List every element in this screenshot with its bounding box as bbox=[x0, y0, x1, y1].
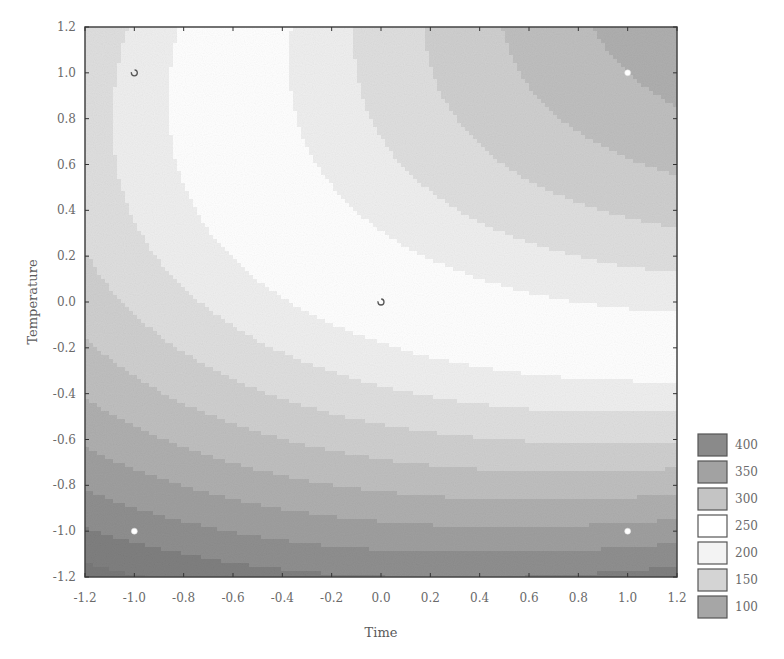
legend-swatch bbox=[698, 569, 727, 591]
x-tick-label: -1.2 bbox=[73, 591, 96, 605]
y-tick-label: -0.4 bbox=[53, 387, 77, 401]
x-tick-label: 0.0 bbox=[371, 591, 390, 605]
legend-swatch bbox=[698, 542, 727, 564]
legend-swatch bbox=[698, 596, 727, 618]
y-tick-label: 1.2 bbox=[57, 20, 76, 34]
legend-swatch bbox=[698, 461, 727, 483]
legend-label: 300 bbox=[735, 492, 758, 506]
x-tick-label: 1.0 bbox=[618, 591, 637, 605]
y-tick-label: -0.6 bbox=[53, 433, 76, 447]
contour-chart: -1.2-1.0-0.8-0.6-0.4-0.20.00.20.40.60.81… bbox=[0, 0, 784, 659]
x-tick-label: -0.8 bbox=[172, 591, 195, 605]
legend-label: 200 bbox=[735, 546, 758, 560]
x-tick-label: 0.4 bbox=[470, 591, 489, 605]
x-tick-label: -0.2 bbox=[320, 591, 343, 605]
y-tick-label: 0.8 bbox=[57, 112, 76, 126]
legend-label: 150 bbox=[735, 573, 758, 587]
x-tick-label: -0.6 bbox=[221, 591, 244, 605]
design-point-marker bbox=[625, 70, 631, 76]
y-tick-label: 0.4 bbox=[57, 203, 76, 217]
x-tick-label: 1.2 bbox=[667, 591, 686, 605]
legend-label: 350 bbox=[735, 465, 758, 479]
y-tick-label: -0.2 bbox=[53, 341, 76, 355]
legend-label: 400 bbox=[735, 438, 758, 452]
y-tick-label: 0.6 bbox=[57, 158, 76, 172]
y-axis-title: Temperature bbox=[25, 259, 40, 344]
y-tick-label: 1.0 bbox=[57, 66, 76, 80]
design-point-marker bbox=[131, 528, 137, 534]
plot-area bbox=[85, 27, 677, 579]
x-tick-label: 0.8 bbox=[569, 591, 588, 605]
y-tick-label: -1.2 bbox=[53, 570, 76, 584]
x-tick-label: 0.2 bbox=[421, 591, 440, 605]
y-tick-label: 0.2 bbox=[57, 249, 76, 263]
x-tick-label: -1.0 bbox=[123, 591, 146, 605]
y-tick-label: 0.0 bbox=[57, 295, 76, 309]
x-tick-label: -0.4 bbox=[271, 591, 295, 605]
legend-label: 250 bbox=[735, 519, 758, 533]
legend-swatch bbox=[698, 434, 727, 456]
design-point-marker bbox=[625, 528, 631, 534]
contour-bands bbox=[85, 27, 677, 579]
legend-swatch bbox=[698, 515, 727, 537]
y-tick-label: -0.8 bbox=[53, 478, 76, 492]
x-axis-title: Time bbox=[365, 625, 398, 640]
legend-swatch bbox=[698, 488, 727, 510]
y-tick-label: -1.0 bbox=[53, 524, 76, 538]
x-tick-label: 0.6 bbox=[519, 591, 538, 605]
legend-label: 100 bbox=[735, 600, 758, 614]
legend: 400350300250200150100 bbox=[698, 434, 758, 618]
